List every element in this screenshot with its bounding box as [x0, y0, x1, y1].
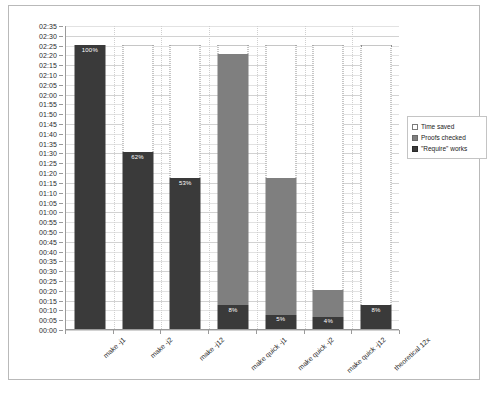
y-axis-tick-label: 02:30 — [39, 32, 57, 39]
y-axis-tick-label: 01:05 — [39, 199, 57, 206]
stacked-bar[interactable]: 4% — [313, 45, 344, 329]
stacked-bar[interactable]: 8% — [217, 45, 248, 329]
bar-segment[interactable]: 8% — [217, 305, 248, 329]
y-axis-tick-mark — [59, 163, 63, 164]
y-axis: 02:3502:3002:2502:2002:1502:1002:0502:00… — [9, 26, 63, 330]
bar-slot: 4% — [305, 26, 353, 329]
y-axis-tick-mark — [59, 271, 63, 272]
y-axis-tick-mark — [59, 330, 63, 331]
bar-segment[interactable] — [265, 45, 296, 178]
y-axis-tick-mark — [59, 320, 63, 321]
bar-segment[interactable] — [217, 45, 248, 55]
bar-segment[interactable] — [313, 290, 344, 317]
x-axis-tick-mark — [65, 330, 66, 334]
plot-area: 100%62%53%8%5%4%8% — [65, 26, 399, 330]
y-axis-tick-mark — [59, 65, 63, 66]
y-axis-tick-label: 00:50 — [39, 228, 57, 235]
legend-item[interactable]: Proofs checked — [412, 132, 482, 143]
y-axis-tick-label: 01:25 — [39, 160, 57, 167]
stacked-bar[interactable]: 62% — [122, 45, 153, 329]
y-axis-tick-mark — [59, 144, 63, 145]
bar-segment[interactable] — [313, 45, 344, 290]
y-axis-tick-label: 00:05 — [39, 317, 57, 324]
y-axis-tick-mark — [59, 55, 63, 56]
bar-segment[interactable]: 53% — [170, 178, 201, 329]
bar-slot: 62% — [114, 26, 162, 329]
x-axis-tick-label: make -j2 — [149, 336, 174, 359]
x-axis-tick-mark — [351, 330, 352, 334]
x-axis-tick-label: make quick -j1 — [249, 336, 287, 371]
y-axis-tick-mark — [59, 183, 63, 184]
y-axis-tick-label: 02:35 — [39, 23, 57, 30]
bar-data-label: 4% — [313, 317, 344, 325]
bar-data-label: 53% — [170, 179, 201, 187]
legend-swatch-icon — [412, 135, 418, 141]
stacked-bar[interactable]: 8% — [361, 45, 392, 329]
bar-segment[interactable]: 100% — [74, 45, 105, 329]
bar-data-label: 8% — [361, 306, 392, 314]
y-axis-tick-label: 00:20 — [39, 287, 57, 294]
x-axis-tick-mark — [304, 330, 305, 334]
x-axis: make -j1make -j2make -j12make quick -j1m… — [65, 330, 399, 395]
bar-segment[interactable] — [361, 45, 392, 306]
y-axis-tick-label: 00:10 — [39, 307, 57, 314]
y-axis-tick-mark — [59, 134, 63, 135]
bar-segment[interactable]: 62% — [122, 152, 153, 329]
y-axis-tick-label: 00:35 — [39, 258, 57, 265]
bar-segment[interactable] — [170, 45, 201, 178]
bar-slot: 5% — [257, 26, 305, 329]
bar-segment[interactable] — [122, 45, 153, 153]
y-axis-tick-mark — [59, 153, 63, 154]
y-axis-tick-mark — [59, 36, 63, 37]
bar-data-label: 8% — [217, 306, 248, 314]
y-axis-tick-mark — [59, 124, 63, 125]
bar-slot: 53% — [161, 26, 209, 329]
bar-segment[interactable] — [217, 54, 248, 305]
legend-swatch-icon — [412, 146, 418, 152]
x-axis-tick-label: make quick -j2 — [297, 336, 335, 371]
y-axis-tick-label: 02:00 — [39, 91, 57, 98]
x-axis-tick-mark — [160, 330, 161, 334]
y-axis-tick-label: 00:15 — [39, 297, 57, 304]
bar-segment[interactable]: 4% — [313, 317, 344, 329]
y-axis-tick-label: 01:20 — [39, 170, 57, 177]
bar-data-label: 5% — [265, 315, 296, 323]
y-axis-tick-label: 02:25 — [39, 42, 57, 49]
y-axis-tick-label: 02:20 — [39, 52, 57, 59]
stacked-bar[interactable]: 100% — [74, 45, 105, 329]
y-axis-tick-label: 01:45 — [39, 121, 57, 128]
y-axis-tick-label: 01:40 — [39, 130, 57, 137]
bar-segment[interactable] — [265, 178, 296, 315]
legend-item[interactable]: "Require" works — [412, 143, 482, 154]
bar-slot: 8% — [352, 26, 400, 329]
x-axis-tick-label: make -j12 — [198, 336, 226, 362]
y-axis-tick-mark — [59, 173, 63, 174]
y-axis-tick-label: 01:35 — [39, 140, 57, 147]
y-axis-tick-mark — [59, 26, 63, 27]
y-axis-tick-mark — [59, 310, 63, 311]
y-axis-tick-mark — [59, 104, 63, 105]
y-axis-tick-mark — [59, 252, 63, 253]
stacked-bar[interactable]: 5% — [265, 45, 296, 329]
bar-segment[interactable]: 8% — [361, 305, 392, 329]
y-axis-tick-mark — [59, 193, 63, 194]
legend-item[interactable]: Time saved — [412, 121, 482, 132]
y-axis-tick-label: 01:30 — [39, 150, 57, 157]
y-axis-tick-label: 00:25 — [39, 277, 57, 284]
bar-segment[interactable]: 5% — [265, 315, 296, 329]
x-axis-tick-mark — [208, 330, 209, 334]
y-axis-tick-label: 01:15 — [39, 179, 57, 186]
y-axis-tick-label: 01:55 — [39, 101, 57, 108]
chart-legend: Time savedProofs checked"Require" works — [407, 116, 487, 159]
y-axis-tick-label: 02:10 — [39, 72, 57, 79]
y-axis-tick-label: 00:30 — [39, 268, 57, 275]
y-axis-tick-label: 01:10 — [39, 189, 57, 196]
x-axis-tick-mark — [256, 330, 257, 334]
y-axis-tick-mark — [59, 46, 63, 47]
y-axis-tick-mark — [59, 261, 63, 262]
stacked-bar[interactable]: 53% — [170, 45, 201, 329]
bar-slot: 8% — [209, 26, 257, 329]
x-axis-tick-label: make -j1 — [101, 336, 126, 359]
y-axis-tick-mark — [59, 291, 63, 292]
y-axis-tick-label: 00:55 — [39, 219, 57, 226]
